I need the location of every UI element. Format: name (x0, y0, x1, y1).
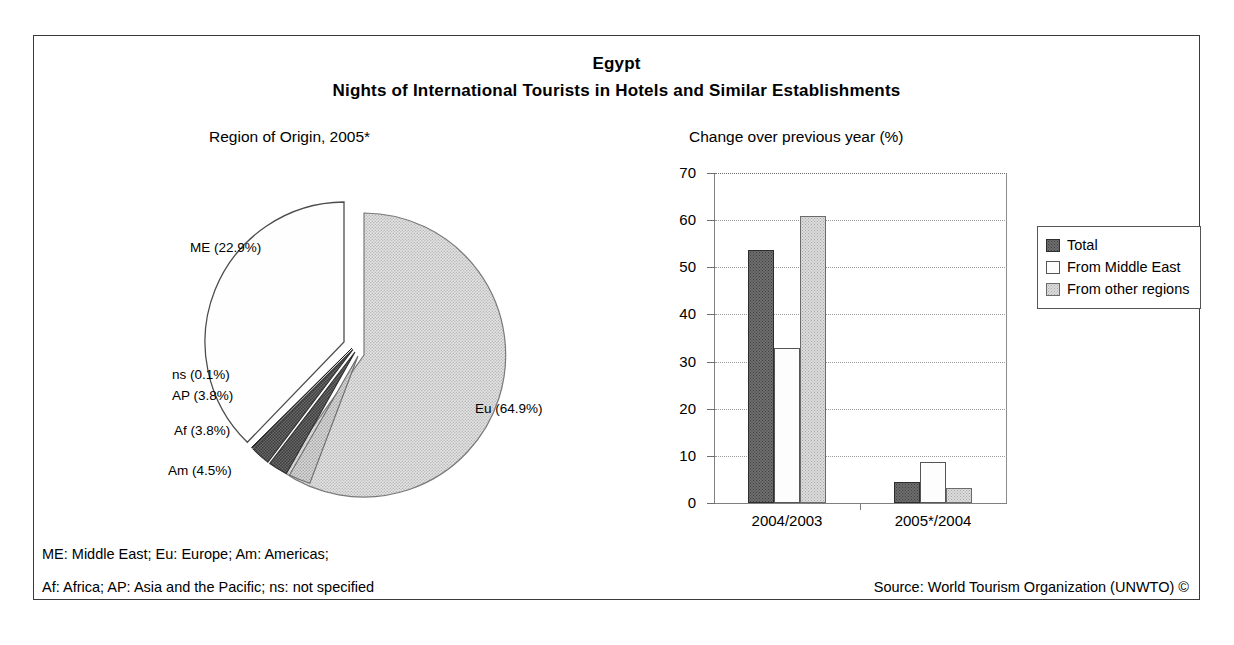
pie-label-ns: ns (0.1%) (172, 368, 230, 382)
x-axis-label-2: 2005*/2004 (860, 512, 1006, 529)
legend-item-other-regions[interactable]: From other regions (1046, 278, 1190, 300)
bar-total-2 (894, 482, 920, 503)
plot-right-border (1006, 173, 1007, 504)
bar-chart: 010203040506070 2004/20032005*/2004 Tota… (634, 156, 1194, 556)
y-axis-label-0: 0 (634, 494, 696, 511)
legend-label-middle-east: From Middle East (1067, 259, 1181, 275)
pie-chart-title: Region of Origin, 2005* (209, 128, 370, 146)
y-tick-mark-10 (707, 456, 715, 457)
chart-legend: Total From Middle East From other region… (1037, 226, 1201, 309)
y-tick-mark-20 (707, 409, 715, 410)
y-axis-label-50: 50 (634, 258, 696, 275)
pie-label-eu: Eu (64.9%) (475, 402, 543, 416)
pie-label-am: Am (4.5%) (168, 464, 232, 478)
legend-item-total[interactable]: Total (1046, 234, 1190, 256)
y-tick-mark-70 (707, 173, 715, 174)
legend-swatch-middle-east-icon (1046, 261, 1060, 274)
y-axis-label-40: 40 (634, 305, 696, 322)
x-tick-mark-2 (860, 503, 861, 510)
chart-card: Egypt Nights of International Tourists i… (33, 35, 1200, 600)
y-axis-label-20: 20 (634, 400, 696, 417)
bar-other-regions-2 (946, 488, 972, 503)
legend-swatch-total-icon (1046, 239, 1060, 252)
y-axis-label-10: 10 (634, 447, 696, 464)
y-axis-label-30: 30 (634, 353, 696, 370)
y-tick-mark-60 (707, 220, 715, 221)
abbreviation-note-line-1: ME: Middle East; Eu: Europe; Am: America… (42, 546, 329, 562)
y-tick-mark-50 (707, 267, 715, 268)
page-subtitle: Nights of International Tourists in Hote… (34, 81, 1199, 101)
gridline-70 (715, 173, 1007, 174)
legend-item-middle-east[interactable]: From Middle East (1046, 256, 1190, 278)
y-tick-mark-0 (707, 503, 715, 504)
legend-swatch-other-regions-icon (1046, 283, 1060, 296)
bar-total-1 (748, 250, 774, 503)
x-axis-label-1: 2004/2003 (714, 512, 860, 529)
y-axis-line (714, 173, 715, 504)
y-tick-mark-30 (707, 362, 715, 363)
y-axis-label-70: 70 (634, 164, 696, 181)
legend-label-total: Total (1067, 237, 1098, 253)
pie-chart-svg (70, 156, 640, 526)
source-note: Source: World Tourism Organization (UNWT… (874, 579, 1189, 595)
bar-chart-title: Change over previous year (%) (689, 128, 904, 146)
pie-label-ap: AP (3.8%) (172, 389, 233, 403)
pie-label-af: Af (3.8%) (174, 424, 230, 438)
page-title: Egypt (34, 54, 1199, 74)
abbreviation-note-line-2: Af: Africa; AP: Asia and the Pacific; ns… (42, 579, 374, 595)
y-tick-mark-40 (707, 314, 715, 315)
pie-label-me: ME (22.9%) (190, 241, 261, 255)
bar-middle-east-2 (920, 462, 946, 503)
y-axis-label-60: 60 (634, 211, 696, 228)
bar-other-regions-1 (800, 216, 826, 503)
gridline-60 (715, 220, 1007, 221)
legend-label-other-regions: From other regions (1067, 281, 1190, 297)
pie-chart: ME (22.9%) ns (0.1%) AP (3.8%) Af (3.8%)… (70, 156, 640, 526)
bar-middle-east-1 (774, 348, 800, 503)
